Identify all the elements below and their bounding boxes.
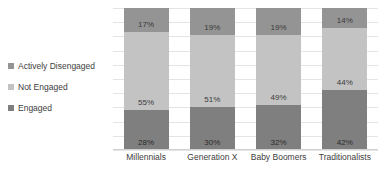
bar-segment-label: 51% xyxy=(204,96,220,107)
bar-segment[interactable]: 19% xyxy=(190,8,235,35)
stacked-bar-chart: Actively Disengaged Not Engaged Engaged … xyxy=(0,0,388,179)
category-tick-label: Millennials xyxy=(113,152,179,162)
chart-legend: Actively Disengaged Not Engaged Engaged xyxy=(8,57,112,120)
bar-group: 19%51%30% xyxy=(179,8,245,150)
legend-swatch-icon xyxy=(8,84,14,90)
bar-segment[interactable]: 28% xyxy=(124,110,169,150)
bar-segment[interactable]: 42% xyxy=(322,90,367,150)
legend-item-label: Engaged xyxy=(18,104,52,113)
bar-segment-label: 49% xyxy=(271,94,287,105)
stacked-bar[interactable]: 14%44%42% xyxy=(322,8,367,150)
bar-segment[interactable]: 32% xyxy=(256,105,301,150)
category-tick-label: Traditionalists xyxy=(312,152,378,162)
bar-group: 14%44%42% xyxy=(312,8,378,150)
legend-item-actively-disengaged[interactable]: Actively Disengaged xyxy=(8,57,112,75)
bar-group: 17%55%28% xyxy=(113,8,179,150)
legend-item-label: Not Engaged xyxy=(18,83,68,92)
x-axis-line xyxy=(113,149,378,150)
bar-segment[interactable]: 30% xyxy=(190,107,235,150)
legend-item-label: Actively Disengaged xyxy=(18,62,95,71)
legend-swatch-icon xyxy=(8,105,14,111)
bar-series-container: 17%55%28%19%51%30%19%49%32%14%44%42% xyxy=(113,8,378,150)
bar-segment[interactable]: 51% xyxy=(190,35,235,107)
stacked-bar[interactable]: 17%55%28% xyxy=(124,8,169,150)
bar-segment[interactable]: 44% xyxy=(322,28,367,90)
bar-segment[interactable]: 19% xyxy=(256,8,301,35)
legend-swatch-icon xyxy=(8,63,14,69)
stacked-bar[interactable]: 19%51%30% xyxy=(190,8,235,150)
bar-segment-label: 19% xyxy=(204,24,220,35)
stacked-bar[interactable]: 19%49%32% xyxy=(256,8,301,150)
plot-area: 17%55%28%19%51%30%19%49%32%14%44%42% xyxy=(113,8,378,150)
gridline xyxy=(113,150,378,151)
bar-segment[interactable]: 17% xyxy=(124,8,169,32)
bar-segment[interactable]: 49% xyxy=(256,35,301,105)
bar-segment-label: 17% xyxy=(138,21,154,32)
legend-item-not-engaged[interactable]: Not Engaged xyxy=(8,78,112,96)
bar-segment[interactable]: 14% xyxy=(322,8,367,28)
bar-segment-label: 14% xyxy=(337,17,353,28)
category-tick-label: Baby Boomers xyxy=(246,152,312,162)
bar-segment[interactable]: 55% xyxy=(124,32,169,110)
bar-segment-label: 55% xyxy=(138,99,154,110)
bar-segment-label: 19% xyxy=(271,24,287,35)
bar-segment-label: 44% xyxy=(337,79,353,90)
legend-item-engaged[interactable]: Engaged xyxy=(8,99,112,117)
category-tick-label: Generation X xyxy=(179,152,245,162)
bar-group: 19%49%32% xyxy=(246,8,312,150)
x-axis-category-labels: MillennialsGeneration XBaby BoomersTradi… xyxy=(113,152,378,162)
